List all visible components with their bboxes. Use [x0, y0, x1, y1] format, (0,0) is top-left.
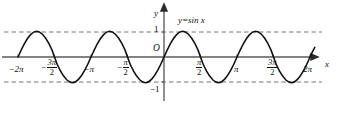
x-tick-label-pi-over-2: π2: [196, 58, 202, 77]
curve-equation-label: y=sin x: [178, 16, 205, 25]
x-tick-label-2pi: 2π: [303, 60, 313, 76]
denominator: 2: [47, 68, 58, 77]
x-tick-label-minus-3pi-over-2: −3π2: [41, 58, 57, 77]
fraction: 3π2: [267, 58, 278, 77]
value-glyph: 2π: [303, 65, 313, 74]
denominator: 2: [123, 68, 129, 77]
fraction: π2: [123, 58, 129, 77]
x-tick-label-minus-2pi: −2π: [9, 60, 24, 76]
value-glyph: π: [90, 65, 95, 74]
value-glyph: 2π: [15, 65, 25, 74]
denominator: 2: [196, 68, 202, 77]
x-tick-label-pi: π: [234, 60, 239, 76]
fraction: 3π2: [47, 58, 58, 77]
y-tick-label-one: 1: [154, 25, 159, 34]
x-tick-label-minus-pi: −π: [84, 60, 95, 76]
y-axis-label: y: [154, 9, 158, 18]
origin-label: O: [153, 44, 160, 54]
value-glyph: π: [234, 65, 239, 74]
denominator: 2: [267, 68, 278, 77]
x-tick-label-minus-pi-over-2: −π2: [117, 58, 129, 77]
x-axis-label: x: [325, 60, 329, 69]
fraction: π2: [196, 58, 202, 77]
x-tick-label-3pi-over-2: 3π2: [267, 58, 278, 77]
y-tick-label-minus-one: −1: [150, 85, 160, 94]
sine-function-graph: y x O y=sin x 1 −1 −2π −3π2 −π −π2 π2 π …: [0, 0, 338, 120]
